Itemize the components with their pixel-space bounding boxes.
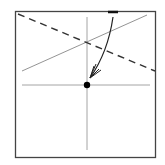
origami-diagram — [0, 0, 165, 165]
background — [0, 0, 165, 165]
reference-point — [84, 82, 90, 88]
